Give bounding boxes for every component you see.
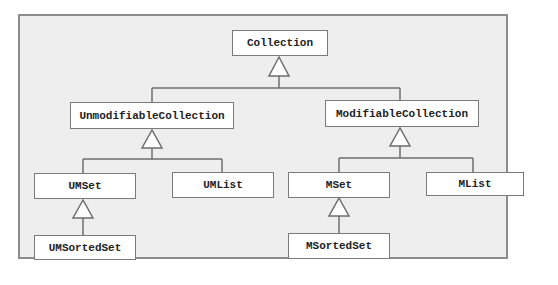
inheritance-arrow-icon (142, 130, 162, 148)
inheritance-arrow-icon (329, 198, 349, 216)
class-node-unmodifiable-collection: UnmodifiableCollection (70, 102, 234, 129)
class-node-umset: UMSet (34, 173, 136, 199)
inheritance-arrow-icon (390, 128, 410, 146)
inheritance-arrow-icon (269, 57, 289, 76)
class-node-msortedset: MSortedSet (288, 233, 390, 259)
class-node-umsortedset: UMSortedSet (34, 235, 136, 260)
inheritance-arrow-icon (73, 200, 93, 218)
class-node-collection: Collection (232, 30, 328, 56)
class-node-mset: MSet (288, 172, 390, 198)
class-node-mlist: MList (426, 172, 524, 196)
class-node-umlist: UMList (172, 172, 274, 198)
class-node-modifiable-collection: ModifiableCollection (325, 100, 479, 127)
class-hierarchy-diagram: Collection UnmodifiableCollection Modifi… (0, 0, 558, 285)
